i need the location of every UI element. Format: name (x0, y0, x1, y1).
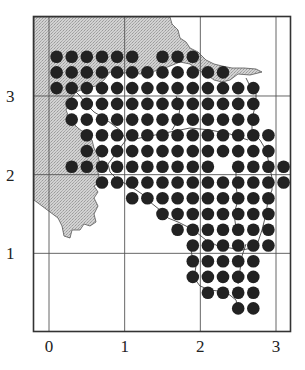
sample-dot (111, 98, 124, 111)
sample-dot (141, 161, 154, 174)
sample-dot (156, 50, 169, 63)
y-tick-label: 2 (6, 166, 15, 183)
sample-dot (217, 192, 230, 205)
sample-dot (202, 286, 215, 299)
sample-dot (247, 161, 260, 174)
sample-dot (156, 113, 169, 126)
sample-dot (202, 82, 215, 95)
sample-dot (96, 129, 109, 142)
sample-dot (126, 161, 139, 174)
sample-dot (217, 176, 230, 189)
sample-dot (217, 66, 230, 79)
sample-dot (141, 82, 154, 95)
sample-dot (171, 145, 184, 158)
sample-dot (217, 208, 230, 221)
x-tick-label: 0 (45, 338, 54, 355)
sample-dot (247, 255, 260, 268)
sample-dot (217, 223, 230, 236)
sample-dot (126, 145, 139, 158)
sample-dot (232, 271, 245, 284)
sample-dot (187, 192, 200, 205)
sample-dot (247, 302, 260, 315)
sample-dot (202, 129, 215, 142)
sample-dot (202, 271, 215, 284)
sample-dot (126, 192, 139, 205)
sample-dot (202, 98, 215, 111)
sample-dot (232, 82, 245, 95)
sample-dot (96, 113, 109, 126)
sample-dot (202, 145, 215, 158)
sample-dot (247, 271, 260, 284)
sample-dot (81, 50, 94, 63)
sample-dot (111, 82, 124, 95)
sample-dot (126, 113, 139, 126)
x-tick-label: 3 (272, 338, 281, 355)
sample-dot (111, 176, 124, 189)
sample-dot (262, 161, 275, 174)
sample-dot (50, 82, 63, 95)
sample-dot (187, 66, 200, 79)
sample-dot (232, 192, 245, 205)
sample-dot (171, 66, 184, 79)
sample-dot (65, 98, 78, 111)
sample-dot (187, 176, 200, 189)
sample-dot (202, 176, 215, 189)
sample-dot (247, 176, 260, 189)
sample-dot (156, 161, 169, 174)
sample-dot (247, 113, 260, 126)
sample-dot (247, 98, 260, 111)
sample-dot (277, 161, 290, 174)
sample-dot (187, 129, 200, 142)
sample-dot (65, 82, 78, 95)
sample-dot (187, 208, 200, 221)
sample-dot (232, 145, 245, 158)
sample-dot (262, 145, 275, 158)
sample-dot (156, 98, 169, 111)
sample-dot (111, 145, 124, 158)
sample-dot (187, 255, 200, 268)
sample-dot (111, 113, 124, 126)
sample-dot (141, 192, 154, 205)
sample-dot (187, 113, 200, 126)
sample-dot (81, 66, 94, 79)
sample-dot (202, 113, 215, 126)
sample-dot (96, 50, 109, 63)
sample-dot (126, 129, 139, 142)
sample-dot (247, 145, 260, 158)
sample-dot (187, 239, 200, 252)
sample-dot (81, 82, 94, 95)
sample-dot (111, 66, 124, 79)
sample-dot (262, 223, 275, 236)
sample-dot (247, 129, 260, 142)
sample-dot (202, 255, 215, 268)
sample-dot (96, 98, 109, 111)
sample-dot (232, 161, 245, 174)
sample-dot (111, 161, 124, 174)
sample-dot (171, 82, 184, 95)
sample-dot (141, 98, 154, 111)
land-area (34, 17, 262, 238)
sample-dot (262, 129, 275, 142)
sample-dot (156, 66, 169, 79)
sample-dot (232, 113, 245, 126)
sample-dot (171, 113, 184, 126)
sample-dot (126, 82, 139, 95)
x-tick-label: 1 (120, 338, 129, 355)
sample-dot (171, 223, 184, 236)
sample-dot (156, 192, 169, 205)
sample-dot (247, 192, 260, 205)
sample-dot (217, 82, 230, 95)
sample-dot (81, 145, 94, 158)
sample-dot (141, 129, 154, 142)
sample-dot (171, 192, 184, 205)
sample-dot (96, 66, 109, 79)
sample-dot (202, 66, 215, 79)
sample-dot (96, 145, 109, 158)
sample-dot (202, 192, 215, 205)
sample-dot (187, 145, 200, 158)
sample-dot (156, 129, 169, 142)
sample-dot (202, 239, 215, 252)
sample-dot (232, 255, 245, 268)
sample-dot (141, 66, 154, 79)
sample-dot (156, 145, 169, 158)
